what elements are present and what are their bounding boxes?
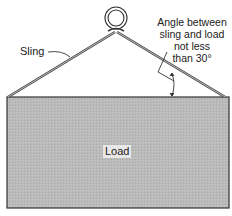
angle-note-line-1: Angle between bbox=[156, 16, 228, 28]
lifting-ring-icon bbox=[105, 7, 127, 31]
load-label: Load bbox=[103, 145, 131, 158]
angle-note-line-3: not less bbox=[156, 40, 228, 52]
angle-note: Angle between sling and load not less th… bbox=[156, 16, 228, 64]
sling-label: Sling bbox=[20, 46, 44, 57]
angle-note-line-2: sling and load bbox=[156, 28, 228, 40]
angle-note-line-4: than 30° bbox=[156, 52, 228, 64]
sling-leader-line bbox=[48, 52, 70, 57]
